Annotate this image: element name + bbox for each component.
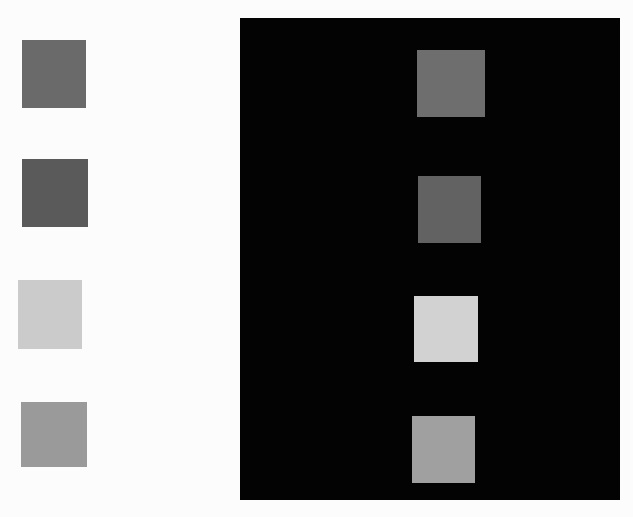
gray-square-on-black-3 [414,296,478,362]
gray-square-on-white-2 [22,159,88,227]
gray-square-on-white-4 [21,402,87,467]
gray-square-on-black-1 [417,50,485,117]
gray-square-on-black-2 [418,176,481,243]
gray-square-on-white-3 [18,280,82,349]
gray-square-on-white-1 [22,40,86,108]
gray-square-on-black-4 [412,416,475,483]
